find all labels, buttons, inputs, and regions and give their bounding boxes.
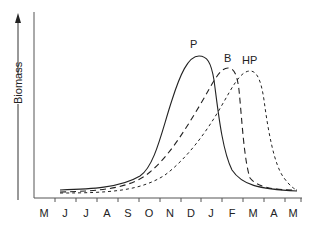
- x-tick-label: A: [97, 207, 117, 219]
- x-tick-label: O: [139, 207, 159, 219]
- x-tick-label: J: [55, 207, 75, 219]
- y-arrow: [15, 13, 21, 200]
- x-tick-label: D: [181, 207, 201, 219]
- x-tick-label: J: [201, 207, 221, 219]
- label-p: P: [190, 38, 197, 50]
- x-tick-label: J: [76, 207, 96, 219]
- x-tick-label: S: [118, 207, 138, 219]
- arrow-up-icon: [15, 13, 21, 23]
- x-tick-label: M: [34, 207, 54, 219]
- x-ticks: [55, 198, 301, 202]
- x-tick-label: M: [283, 207, 303, 219]
- label-b: B: [224, 52, 231, 64]
- curve-hp: [60, 71, 297, 193]
- y-axis-label: Biomass: [10, 74, 26, 104]
- biomass-chart: [0, 0, 309, 227]
- x-tick-label: A: [264, 207, 284, 219]
- x-tick-label: F: [222, 207, 242, 219]
- curve-p: [60, 56, 297, 191]
- x-tick-label: M: [243, 207, 263, 219]
- x-tick-label: N: [160, 207, 180, 219]
- label-hp: HP: [242, 54, 257, 66]
